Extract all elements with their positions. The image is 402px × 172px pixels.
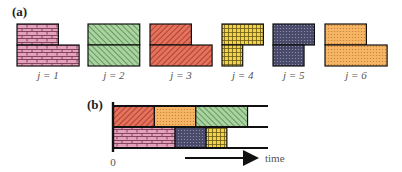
job-4-top-block (222, 24, 263, 45)
job-6-top-block (325, 24, 366, 45)
job-6-bottom-block (325, 45, 387, 66)
job-1-bottom-block (17, 45, 79, 66)
job-2-top-block (88, 24, 140, 45)
job-5-bottom-block (273, 45, 304, 66)
origin-label: 0 (110, 156, 116, 168)
job-1: j = 1 (17, 24, 79, 81)
job-6-label: j = 6 (343, 69, 367, 81)
gantt-row-1-job-3 (113, 106, 154, 127)
job-4-label: j = 4 (230, 69, 254, 81)
job-2-label: j = 2 (101, 69, 125, 81)
gantt-row-1-job-2 (196, 106, 248, 127)
job-4: j = 4 (222, 24, 263, 81)
panel-a-label: (a) (12, 4, 27, 19)
job-1-top-block (17, 24, 58, 45)
schedule-gantt (113, 102, 268, 152)
job-5: j = 5 (273, 24, 314, 81)
time-label: time (265, 152, 285, 164)
job-6: j = 6 (325, 24, 387, 81)
job-3-label: j = 3 (168, 69, 192, 81)
panel-b-label: (b) (87, 97, 103, 112)
job-shapes: j = 1j = 2j = 3j = 4j = 5j = 6 (17, 24, 387, 81)
scheduling-figure: (a) j = 1j = 2j = 3j = 4j = 5j = 6 (b) 0… (0, 0, 402, 172)
job-3-bottom-block (150, 45, 212, 66)
gantt-row-2-job-1 (113, 127, 175, 148)
job-2-bottom-block (88, 45, 140, 66)
job-1-label: j = 1 (35, 69, 58, 81)
gantt-row-1-job-6 (154, 106, 195, 127)
job-5-top-block (273, 24, 314, 45)
job-3-top-block (150, 24, 191, 45)
job-2: j = 2 (88, 24, 140, 81)
job-5-label: j = 5 (281, 69, 305, 81)
job-4-bottom-block (222, 45, 243, 66)
job-3: j = 3 (150, 24, 212, 81)
gantt-row-2-job-4 (206, 127, 227, 148)
gantt-row-2-job-5 (175, 127, 206, 148)
